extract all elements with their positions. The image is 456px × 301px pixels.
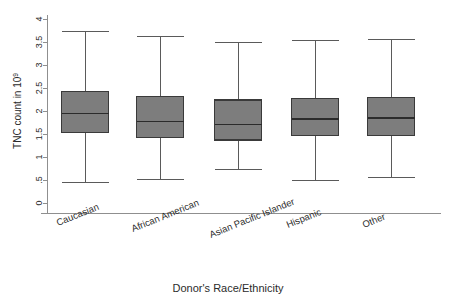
y-tick-label: 2 xyxy=(34,108,44,113)
x-tick-labels: CaucasianAfrican AmericanAsian Pacific I… xyxy=(55,196,387,240)
box-plot-item xyxy=(137,36,184,179)
y-tick-label: 2.5 xyxy=(34,82,44,95)
y-tick-label: 4 xyxy=(34,16,44,21)
x-tick-label: African American xyxy=(130,197,201,234)
y-tick-label: 1 xyxy=(34,154,44,159)
box-plot-item xyxy=(215,43,262,170)
y-tick-label: 3.5 xyxy=(34,36,44,49)
x-tick-label: Asian Pacific Islander xyxy=(208,196,296,240)
box-body xyxy=(215,100,262,140)
box-plot-item xyxy=(62,32,109,182)
box-plot-item xyxy=(368,40,415,178)
box-plot-item xyxy=(292,41,339,181)
box-body xyxy=(292,98,339,136)
x-tick-label: Hispanic xyxy=(285,206,323,230)
y-tick-label: 0 xyxy=(34,200,44,205)
boxes-group xyxy=(62,32,415,182)
box-body xyxy=(137,97,184,138)
y-tick-label: 3 xyxy=(34,62,44,67)
y-tick-label: 1.5 xyxy=(34,128,44,141)
box-body xyxy=(62,92,109,133)
y-axis-title: TNC count in 109 xyxy=(12,73,24,149)
x-axis-title-text: Donor's Race/Ethnicity xyxy=(173,282,284,294)
y-axis-title-text: TNC count in 109 xyxy=(12,73,24,149)
y-tick-label: .5 xyxy=(34,176,44,184)
box-body xyxy=(368,98,415,136)
box-plot-figure: 0.511.522.533.54TNC count in 109Caucasia… xyxy=(0,0,456,301)
x-tick-label: Caucasian xyxy=(55,201,101,228)
x-tick-label: Other xyxy=(361,211,387,230)
plot-area: 0.511.522.533.54TNC count in 109Caucasia… xyxy=(0,0,456,301)
y-axis: 0.511.522.533.54 xyxy=(34,15,47,213)
